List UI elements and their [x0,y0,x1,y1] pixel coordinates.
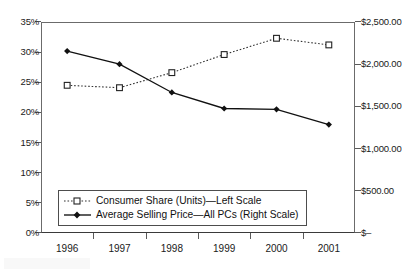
data-point-marker [116,61,122,67]
series-layer [0,0,418,271]
data-point-marker [64,82,70,88]
data-point-marker [169,70,175,76]
legend-item-consumer-share: Consumer Share (Units)—Left Scale [64,194,299,208]
data-point-marker [273,106,279,112]
data-point-marker [169,89,175,95]
legend-label-consumer-share: Consumer Share (Units)—Left Scale [96,195,261,207]
scan-artifact [4,258,90,269]
data-point-marker [117,85,123,91]
legend-label-average-selling-price: Average Selling Price—All PCs (Right Sca… [96,209,299,221]
data-point-marker [221,52,227,58]
legend-item-average-selling-price: Average Selling Price—All PCs (Right Sca… [64,208,299,222]
data-point-marker [274,35,280,41]
data-point-marker [221,105,227,111]
chart-container: 0%5%10%15%20%25%30%35% $–$500.00$1,000.0… [0,0,418,271]
dotted-open-square-marker-icon [64,195,91,207]
series-line [67,51,329,124]
data-point-marker [326,121,332,127]
series-line [67,38,329,87]
data-point-marker [64,48,70,54]
data-point-marker [326,42,332,48]
solid-filled-diamond-marker-icon [64,209,91,221]
chart-legend: Consumer Share (Units)—Left Scale Averag… [58,190,307,226]
